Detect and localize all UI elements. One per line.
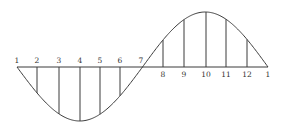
point-label: 10 [201,70,211,79]
point-label: 1 [266,70,271,79]
point-label: 3 [57,56,62,65]
point-label: 9 [182,70,187,79]
point-label: 8 [161,70,166,79]
point-label: 5 [98,56,103,65]
point-label: 4 [78,56,83,65]
point-label: 2 [35,56,40,65]
point-label: 7 [139,56,144,65]
point-label: 1 [15,56,20,65]
point-label: 6 [118,56,123,65]
point-label: 11 [221,70,231,79]
sine-wave-diagram: 1234567891011121 [0,0,287,130]
point-label: 12 [242,70,252,79]
